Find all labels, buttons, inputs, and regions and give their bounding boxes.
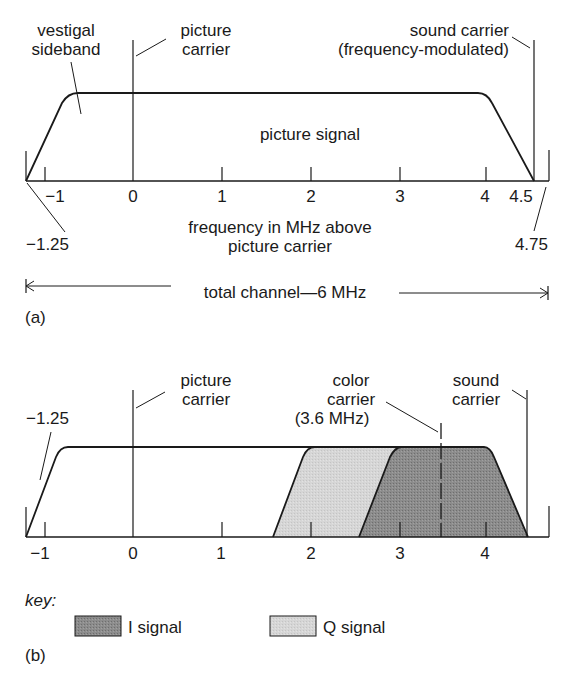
vestigial-label-2: sideband <box>31 40 100 59</box>
tick-label: −1 <box>45 187 64 206</box>
color-carrier-label-2: carrier <box>327 390 376 409</box>
i-signal-swatch <box>75 616 121 636</box>
upper-edge-label: 4.75 <box>515 235 548 254</box>
tv-channel-diagram: vestigal sideband picture carrier sound … <box>0 0 561 684</box>
tick-label: 3 <box>395 187 404 206</box>
vestigial-label-1: vestigal <box>37 21 95 40</box>
picture-carrier-leader-b <box>136 392 165 408</box>
panel-label-b: (b) <box>25 646 46 665</box>
picture-carrier-leader <box>136 39 166 56</box>
picture-carrier-label-b1: picture <box>180 371 231 390</box>
tick-label: 0 <box>128 187 137 206</box>
vestigial-leader <box>71 62 81 114</box>
picture-signal-label: picture signal <box>260 125 360 144</box>
lower-edge-label: −1.25 <box>26 235 69 254</box>
total-channel-label: total channel—6 MHz <box>204 283 367 302</box>
diagram-b: −1.25 picture carrier color carrier (3.6… <box>25 371 549 665</box>
color-carrier-leader <box>386 402 438 432</box>
panel-label-a: (a) <box>25 308 46 327</box>
sound-carrier-label-b2: carrier <box>452 390 501 409</box>
sound-carrier-label-2: (frequency-modulated) <box>338 40 509 59</box>
tick-label-b: 0 <box>128 544 137 563</box>
picture-carrier-label-2: carrier <box>182 40 231 59</box>
i-signal-key-label: I signal <box>128 618 182 637</box>
tick-label-b: 4 <box>480 544 489 563</box>
tick-label-b: 1 <box>216 544 225 563</box>
color-carrier-label-1: color <box>333 371 370 390</box>
q-signal-key-label: Q signal <box>323 618 385 637</box>
tick-label-b: 2 <box>306 544 315 563</box>
x-axis-label-2: picture carrier <box>228 237 332 256</box>
lower-edge-label-b: −1.25 <box>26 409 69 428</box>
picture-carrier-label-b2: carrier <box>182 390 231 409</box>
picture-carrier-label-1: picture <box>180 21 231 40</box>
color-carrier-label-3: (3.6 MHz) <box>295 409 370 428</box>
tick-label-b: −1 <box>30 544 49 563</box>
sound-carrier-leader-b <box>512 390 526 399</box>
sound-carrier-leader <box>512 37 530 48</box>
key-title: key: <box>25 591 56 610</box>
tick-label: 4 <box>480 187 489 206</box>
tick-label-b: 3 <box>395 544 404 563</box>
q-signal-swatch <box>270 616 316 636</box>
diagram-a: vestigal sideband picture carrier sound … <box>25 21 549 327</box>
tick-label: 1 <box>217 187 226 206</box>
tick-label: 4.5 <box>509 187 533 206</box>
x-axis-label-1: frequency in MHz above <box>188 218 371 237</box>
tick-label: 2 <box>306 187 315 206</box>
sound-carrier-label-1: sound carrier <box>410 21 510 40</box>
upper-edge-leader <box>534 187 546 231</box>
sound-carrier-label-b1: sound <box>453 371 499 390</box>
